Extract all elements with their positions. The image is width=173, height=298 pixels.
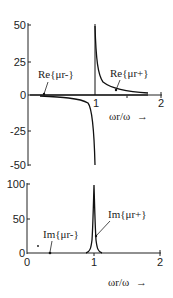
im-mu-plus-curve — [86, 185, 102, 253]
im-mu-plus-label: Im{μr+} — [108, 208, 147, 220]
top-y-tick-neg25: -25 — [10, 125, 26, 137]
re-mu-plus-label: Re{μr+} — [110, 67, 149, 79]
re-mu-minus-curve — [40, 96, 95, 165]
top-x-tick-2: 2 — [158, 97, 164, 109]
bottom-x-arrow: → — [136, 276, 147, 288]
chart-canvas: 50 25 0 -25 -50 1 2 Re{μr+} Re{μr-} ωr/ω… — [0, 0, 173, 298]
bottom-x-tick-0: 0 — [24, 256, 30, 268]
re-mu-plus-curve — [95, 26, 148, 93]
im-mu-minus-label: Im{μr-} — [43, 228, 79, 240]
bottom-y-tick-50: 50 — [13, 213, 25, 225]
top-y-tick-25: 25 — [14, 56, 26, 68]
bottom-chart: 100 50 0 0 1 2 Im{μr+} Im{μr-} ωr/ω → — [7, 178, 163, 288]
bottom-x-label: ωr/ω — [108, 276, 129, 288]
top-y-tick-50: 50 — [14, 19, 26, 31]
top-x-tick-1: 1 — [93, 97, 99, 109]
bottom-x-tick-2: 2 — [157, 256, 163, 268]
bottom-y-tick-100: 100 — [7, 178, 25, 190]
top-x-arrow: → — [137, 110, 148, 122]
re-mu-minus-label: Re{μr-} — [38, 68, 74, 80]
top-x-label: ωr/ω — [109, 110, 130, 122]
top-y-tick-neg50: -50 — [10, 159, 26, 171]
bottom-x-tick-1: 1 — [91, 256, 97, 268]
top-y-tick-0: 0 — [20, 89, 26, 101]
top-chart: 50 25 0 -25 -50 1 2 Re{μr+} Re{μr-} ωr/ω… — [10, 19, 164, 171]
